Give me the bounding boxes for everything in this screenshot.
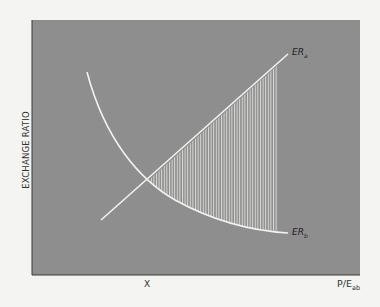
y-axis-label: EXCHANGE RATIO bbox=[15, 95, 37, 205]
chart-canvas bbox=[0, 0, 380, 307]
x-tick-x: X bbox=[144, 279, 150, 289]
label-er-b: ERb bbox=[292, 227, 308, 239]
x-axis-label: P/Eab bbox=[337, 278, 360, 292]
label-er-a: ERa bbox=[292, 47, 308, 59]
